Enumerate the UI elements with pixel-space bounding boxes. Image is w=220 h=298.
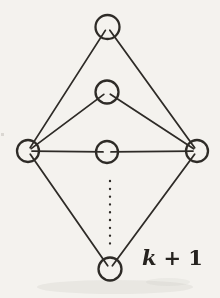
edges-layer — [30, 30, 195, 266]
graph-edge-left-hub-center — [32, 151, 103, 152]
nodes-layer — [17, 15, 208, 281]
label-variable: k — [142, 245, 157, 270]
graph-edge-upper-middle-left-hub — [31, 94, 104, 148]
graph-edge-left-hub-bottom — [30, 154, 107, 265]
graph-edge-upper-middle-right-hub — [110, 94, 193, 149]
graph-diagram: k+1 — [0, 0, 220, 298]
graph-edge-top-left-hub — [30, 30, 105, 147]
k-plus-1-label: k+1 — [142, 245, 203, 270]
scanned-figure-page: k+1 — [0, 0, 220, 298]
graph-node-upper-middle — [96, 81, 119, 104]
graph-edge-center-right-hub — [111, 151, 193, 152]
graph-node-top — [96, 15, 120, 39]
graph-node-bottom — [99, 258, 122, 281]
label-value: 1 — [188, 245, 203, 270]
graph-edge-top-right-hub — [110, 30, 195, 148]
label-operator: + — [164, 245, 182, 270]
